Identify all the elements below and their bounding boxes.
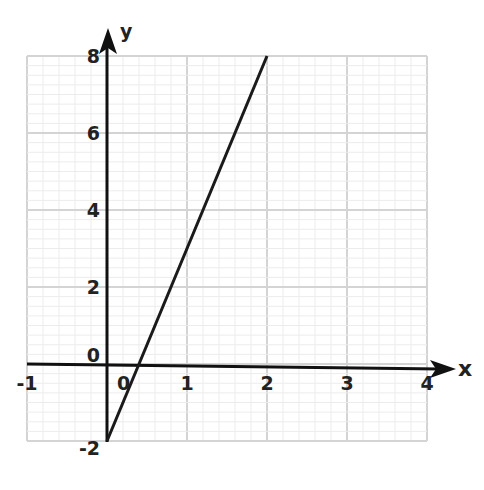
x-tick-label: 2	[260, 372, 273, 394]
grid	[27, 56, 427, 441]
y-tick-label: 4	[87, 199, 100, 221]
x-tick-label: 3	[340, 372, 353, 394]
y-tick-label: 2	[87, 276, 100, 298]
x-axis-label: x	[458, 356, 472, 381]
graph: y x -10123486420-2	[0, 0, 484, 490]
x-tick-label: -1	[16, 372, 37, 394]
y-tick-label: -2	[79, 437, 100, 459]
axes: y x	[27, 20, 472, 442]
x-tick-label: 4	[420, 372, 433, 394]
y-tick-label: 8	[87, 45, 100, 67]
tick-labels: -10123486420-2	[16, 45, 433, 459]
y-tick-label: 6	[87, 122, 100, 144]
y-axis-label: y	[120, 20, 133, 42]
y-tick-label: 0	[87, 344, 100, 366]
x-tick-label: 1	[180, 372, 193, 394]
